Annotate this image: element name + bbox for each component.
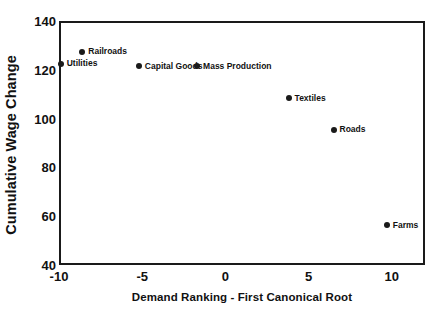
x-axis-tick-label: 5 [279,270,339,283]
scatter-chart-figure: Cumulative Wage Change 140120100806040 U… [0,0,437,317]
x-axis-tick-labels: -10-50510 [0,0,437,317]
x-axis-tick-label: -10 [29,270,89,283]
x-axis-tick-label: 0 [195,270,255,283]
x-axis-title: Demand Ranking - First Canonical Root [59,291,425,303]
x-axis-tick-label: -5 [112,270,172,283]
x-axis-tick-label: 10 [362,270,422,283]
